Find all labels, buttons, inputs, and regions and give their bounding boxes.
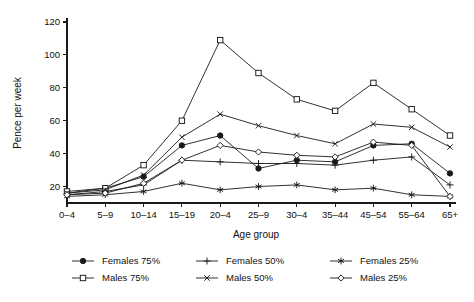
y-tick-label: 80 (49, 82, 60, 93)
y-tick-label: 60 (49, 115, 60, 126)
x-tick-label: 35–44 (322, 209, 348, 220)
legend-label: Females 50% (226, 255, 285, 266)
data-point-open-square (409, 107, 414, 112)
y-tick-label: 120 (44, 16, 60, 27)
data-point-plus (203, 257, 210, 264)
data-point-open-diamond (332, 154, 338, 160)
legend-label: Males 75% (102, 272, 150, 283)
chart-series-layer (63, 37, 453, 199)
data-point-open-square (256, 70, 261, 75)
x-tick-label: 20–4 (210, 209, 231, 220)
data-point-open-square (332, 108, 337, 113)
data-point-open-square (80, 275, 85, 280)
data-point-plus (408, 153, 415, 160)
data-point-open-diamond (179, 157, 185, 163)
data-point-filled-circle (179, 143, 184, 148)
y-axis-ticks: 20406080100120 (44, 16, 67, 192)
legend-item-males-50[interactable]: Males 50% (196, 272, 274, 283)
x-tick-label: 10–14 (130, 209, 156, 220)
y-axis-title: Pence per week (12, 76, 23, 149)
data-point-plus (370, 157, 377, 164)
data-point-open-square (371, 80, 376, 85)
x-tick-label: 25–9 (248, 209, 269, 220)
x-axis-title: Age group (233, 229, 280, 240)
data-point-cross (218, 111, 223, 116)
legend-item-females-50[interactable]: Females 50% (196, 255, 285, 266)
data-point-filled-circle (447, 171, 452, 176)
data-point-cross (447, 144, 452, 149)
x-tick-label: 0–4 (59, 209, 75, 220)
data-point-open-diamond (338, 275, 344, 281)
data-point-open-diamond (217, 142, 223, 148)
data-point-cross (256, 123, 261, 128)
data-point-open-square (447, 133, 452, 138)
legend-item-males-25[interactable]: Males 25% (330, 272, 408, 283)
y-tick-label: 40 (49, 148, 60, 159)
data-point-open-square (218, 37, 223, 42)
y-tick-label: 20 (49, 181, 60, 192)
x-tick-label: 30–4 (286, 209, 307, 220)
chart-legend: Females 75%Females 50%Females 25%Males 7… (72, 255, 419, 283)
line-chart: 20406080100120 0–45–910–1415–1920–425–93… (0, 0, 474, 302)
x-tick-label: 15–19 (169, 209, 195, 220)
data-point-open-square (294, 97, 299, 102)
data-point-open-diamond (294, 152, 300, 158)
chart-container: 20406080100120 0–45–910–1415–1920–425–93… (0, 0, 474, 302)
data-point-filled-circle (218, 133, 223, 138)
data-point-cross (179, 134, 184, 139)
chart-axes (67, 18, 456, 203)
data-point-filled-circle (80, 258, 85, 263)
legend-label: Females 25% (360, 255, 419, 266)
x-tick-label: 5–9 (97, 209, 113, 220)
data-point-open-diamond (255, 149, 261, 155)
x-axis-ticks: 0–45–910–1415–1920–425–930–435–4445–5455… (59, 203, 458, 220)
y-tick-label: 100 (44, 49, 60, 60)
legend-label: Females 75% (102, 255, 161, 266)
data-point-plus (217, 158, 224, 165)
x-tick-label: 45–54 (360, 209, 386, 220)
legend-item-females-25[interactable]: Females 25% (330, 255, 419, 266)
data-point-open-square (179, 118, 184, 123)
data-point-open-square (141, 162, 146, 167)
legend-label: Males 25% (360, 272, 408, 283)
legend-item-females-75[interactable]: Females 75% (72, 255, 161, 266)
x-tick-label: 55–64 (398, 209, 424, 220)
legend-label: Males 50% (226, 272, 274, 283)
data-point-plus (446, 181, 453, 188)
legend-item-males-75[interactable]: Males 75% (72, 272, 150, 283)
x-tick-label: 65+ (442, 209, 459, 220)
